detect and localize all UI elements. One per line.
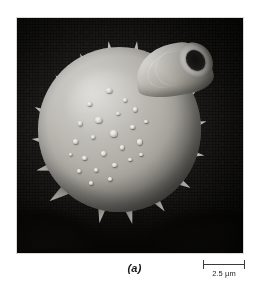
figure-root: (a) 2.5 µm <box>0 0 269 285</box>
caption-row: (a) 2.5 µm <box>0 258 269 285</box>
scale-bar-tick-right <box>244 260 245 269</box>
scale-bar-line <box>203 264 245 265</box>
scale-bar-tick-left <box>203 260 204 269</box>
micrograph-vignette <box>17 18 243 253</box>
scale-bar: 2.5 µm <box>200 260 248 282</box>
scale-bar-label: 2.5 µm <box>200 269 248 278</box>
micrograph-image <box>17 18 243 253</box>
